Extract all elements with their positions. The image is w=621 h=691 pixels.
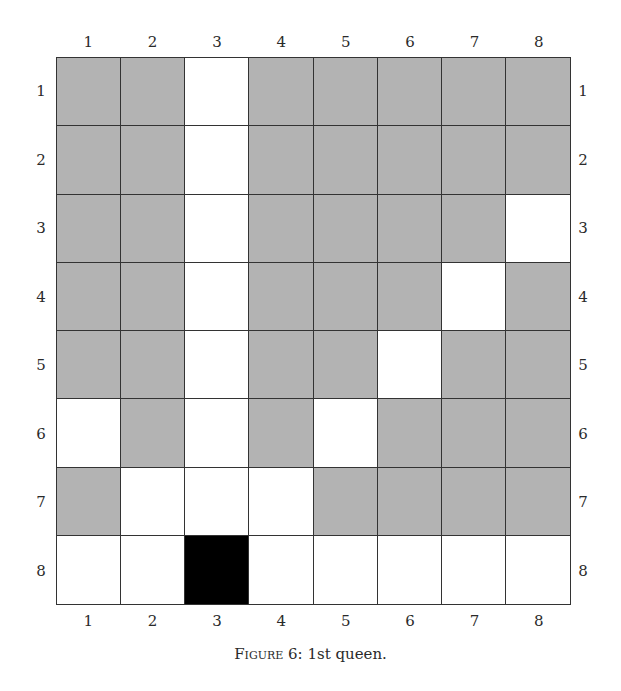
row-label: 6 (26, 400, 56, 469)
board-square-free (314, 399, 378, 467)
board-square-attacked (249, 195, 313, 263)
column-label: 1 (56, 612, 120, 630)
board-square-attacked (121, 58, 185, 126)
board-square-free (249, 468, 313, 536)
board-square-attacked (57, 58, 121, 126)
board-square-free (185, 331, 249, 399)
board-square-attacked (314, 58, 378, 126)
board-square-free (121, 536, 185, 604)
column-label: 1 (56, 33, 120, 51)
board-square-free (506, 195, 570, 263)
board-square-attacked (506, 399, 570, 467)
board-square-attacked (378, 468, 442, 536)
board-square-attacked (506, 58, 570, 126)
column-labels-top: 12345678 (56, 33, 571, 51)
board-square-free (506, 536, 570, 604)
board-square-free (249, 536, 313, 604)
board-square-attacked (378, 399, 442, 467)
row-label: 4 (568, 263, 598, 332)
board-square-attacked (506, 263, 570, 331)
column-label: 2 (120, 33, 184, 51)
board-square-attacked (249, 399, 313, 467)
column-label: 5 (314, 33, 378, 51)
board-square-attacked (249, 58, 313, 126)
board-square-attacked (121, 399, 185, 467)
column-labels-bottom: 12345678 (56, 612, 571, 630)
board-square-free (185, 468, 249, 536)
board-square-attacked (57, 263, 121, 331)
column-label: 8 (507, 33, 571, 51)
row-labels-right: 12345678 (568, 57, 598, 605)
column-label: 6 (378, 33, 442, 51)
board-square-free (378, 331, 442, 399)
column-label: 7 (442, 33, 506, 51)
board-square-free (185, 195, 249, 263)
board-square-attacked (506, 126, 570, 194)
row-label: 8 (26, 537, 56, 606)
queen-square (185, 536, 249, 604)
row-label: 4 (26, 263, 56, 332)
column-label: 3 (185, 33, 249, 51)
board-square-attacked (57, 331, 121, 399)
board-square-attacked (442, 58, 506, 126)
row-label: 7 (568, 468, 598, 537)
row-label: 2 (568, 126, 598, 195)
board-square-free (185, 263, 249, 331)
row-label: 5 (568, 331, 598, 400)
board-square-attacked (442, 195, 506, 263)
board-square-free (185, 58, 249, 126)
board-square-attacked (506, 468, 570, 536)
column-label: 4 (249, 612, 313, 630)
column-label: 7 (442, 612, 506, 630)
board-square-free (314, 536, 378, 604)
row-label: 3 (26, 194, 56, 263)
board-square-attacked (249, 263, 313, 331)
row-label: 6 (568, 400, 598, 469)
board-square-attacked (442, 468, 506, 536)
board-square-attacked (249, 126, 313, 194)
board-square-attacked (314, 195, 378, 263)
board-square-attacked (378, 263, 442, 331)
board-square-attacked (378, 126, 442, 194)
board-square-attacked (121, 126, 185, 194)
board-square-attacked (249, 331, 313, 399)
board-square-attacked (121, 331, 185, 399)
board-square-attacked (57, 468, 121, 536)
row-labels-left: 12345678 (26, 57, 56, 605)
column-label: 5 (314, 612, 378, 630)
row-label: 5 (26, 331, 56, 400)
column-label: 3 (185, 612, 249, 630)
board-square-free (121, 468, 185, 536)
chess-board (56, 57, 571, 605)
board-square-attacked (121, 263, 185, 331)
row-label: 2 (26, 126, 56, 195)
board-square-free (442, 263, 506, 331)
board-square-attacked (314, 331, 378, 399)
row-label: 1 (26, 57, 56, 126)
board-square-free (185, 399, 249, 467)
caption-text: : 1st queen. (298, 645, 387, 663)
board-square-free (442, 536, 506, 604)
board-square-attacked (442, 126, 506, 194)
board-square-attacked (378, 58, 442, 126)
caption-prefix: Figure 6 (234, 645, 297, 663)
board-square-free (57, 399, 121, 467)
board-square-attacked (314, 263, 378, 331)
board-square-attacked (442, 331, 506, 399)
board-square-free (57, 536, 121, 604)
figure-caption: Figure 6: 1st queen. (0, 645, 621, 663)
board-square-attacked (378, 195, 442, 263)
board-square-attacked (121, 195, 185, 263)
board-square-attacked (314, 126, 378, 194)
column-label: 6 (378, 612, 442, 630)
board-square-attacked (57, 126, 121, 194)
row-label: 3 (568, 194, 598, 263)
row-label: 1 (568, 57, 598, 126)
column-label: 8 (507, 612, 571, 630)
column-label: 2 (120, 612, 184, 630)
board-square-attacked (442, 399, 506, 467)
board-square-free (185, 126, 249, 194)
row-label: 7 (26, 468, 56, 537)
column-label: 4 (249, 33, 313, 51)
board-square-free (378, 536, 442, 604)
